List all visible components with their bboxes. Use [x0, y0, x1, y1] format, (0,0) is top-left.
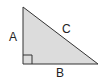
label-side-c: C [62, 22, 71, 36]
triangle-shape [23, 7, 98, 64]
right-triangle-diagram: A C B [0, 0, 99, 81]
label-side-a: A [9, 30, 17, 44]
label-side-b: B [56, 66, 64, 80]
